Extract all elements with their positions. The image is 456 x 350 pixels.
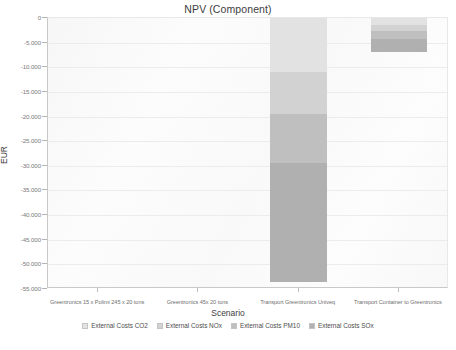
y-tick-label: -45.000: [21, 235, 41, 242]
plot-area: [47, 17, 448, 288]
y-tick-mark: [42, 288, 47, 289]
y-tick-label: -25.000: [21, 137, 41, 144]
x-axis-title: Scenario: [0, 308, 456, 318]
legend-swatch-icon: [309, 323, 315, 329]
y-tick-label: -50.000: [21, 260, 41, 267]
bar-segment[interactable]: [270, 72, 327, 114]
legend-item[interactable]: External Costs SOx: [309, 322, 374, 329]
legend-label: External Costs SOx: [318, 322, 374, 329]
bar-group[interactable]: [270, 18, 327, 287]
x-tick-label: Transport Container to Greentronics: [354, 299, 442, 305]
y-tick-label: -30.000: [21, 161, 41, 168]
x-tick-mark: [197, 288, 198, 292]
legend-label: External Costs CO2: [91, 322, 147, 329]
legend-item[interactable]: External Costs CO2: [82, 322, 147, 329]
legend-swatch-icon: [157, 323, 163, 329]
bar-segment[interactable]: [371, 39, 428, 52]
y-tick-label: -40.000: [21, 211, 41, 218]
legend-label: External Costs PM10: [240, 322, 300, 329]
x-tick-mark: [298, 288, 299, 292]
x-tick-mark: [398, 288, 399, 292]
y-tick-label: -55.000: [21, 285, 41, 292]
y-tick-label: -15.000: [21, 87, 41, 94]
chart-legend: External Costs CO2External Costs NOxExte…: [0, 322, 456, 329]
bar-segment[interactable]: [270, 18, 327, 72]
y-tick-label: -20.000: [21, 112, 41, 119]
y-tick-label: -10.000: [21, 63, 41, 70]
y-axis-ticks: 0-5.000-10.000-15.000-20.000-25.000-30.0…: [0, 0, 47, 350]
y-tick-label: -5.000: [24, 38, 41, 45]
legend-item[interactable]: External Costs PM10: [231, 322, 300, 329]
legend-swatch-icon: [82, 323, 88, 329]
bar-segment[interactable]: [371, 18, 428, 25]
x-tick-label: Greentronics 45x 20 tons: [167, 299, 228, 305]
x-tick-label: Greentronics 15 x Polimi 245 x 20 tons: [50, 299, 144, 305]
bar-group[interactable]: [70, 18, 127, 287]
legend-label: External Costs NOx: [166, 322, 222, 329]
legend-swatch-icon: [231, 323, 237, 329]
bar-segment[interactable]: [371, 31, 428, 39]
bar-segment[interactable]: [270, 163, 327, 281]
npv-component-chart: NPV (Component) EUR 0-5.000-10.000-15.00…: [0, 0, 456, 350]
y-tick-label: 0: [38, 14, 41, 21]
bar-group[interactable]: [371, 18, 428, 287]
bars-layer: [48, 18, 447, 287]
x-tick-mark: [97, 288, 98, 292]
y-tick-label: -35.000: [21, 186, 41, 193]
chart-title: NPV (Component): [0, 3, 456, 15]
bar-segment[interactable]: [270, 114, 327, 163]
legend-item[interactable]: External Costs NOx: [157, 322, 222, 329]
bar-group[interactable]: [170, 18, 227, 287]
x-tick-label: Transport Greentronics Univeq: [260, 299, 335, 305]
